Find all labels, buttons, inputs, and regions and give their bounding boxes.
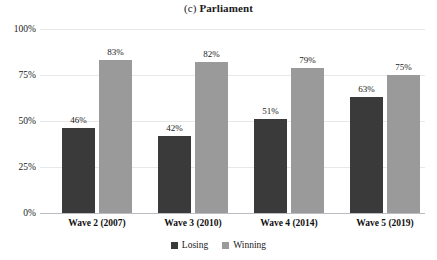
bar-value-label: 51% (246, 106, 295, 116)
y-axis-tick-label: 25% (2, 162, 36, 172)
bar-value-label: 79% (283, 55, 332, 65)
chart-legend: LosingWinning (0, 240, 437, 251)
bar-losing-1[interactable] (62, 128, 95, 213)
bar-losing-2[interactable] (158, 136, 191, 213)
y-axis-tick-label: 100% (2, 24, 36, 34)
bar-winning-3[interactable] (291, 68, 324, 213)
bar-value-label: 42% (150, 123, 199, 133)
y-axis-tick-label: 0% (2, 208, 36, 218)
chart-title-prefix: (c) (184, 2, 197, 14)
y-axis-tick-label: 50% (2, 116, 36, 126)
bar-value-label: 75% (379, 62, 428, 72)
legend-label: Losing (182, 240, 208, 251)
chart-title-main: Parliament (199, 2, 253, 14)
legend-label: Winning (233, 240, 266, 251)
legend-item-winning[interactable]: Winning (222, 240, 266, 251)
gridline (40, 75, 425, 76)
axis-baseline (40, 213, 425, 214)
x-axis-tick-label: Wave 5 (2019) (325, 217, 437, 229)
bar-value-label: 63% (342, 84, 391, 94)
plot-area: 46%83%42%82%51%79%63%75% (40, 29, 425, 213)
legend-item-losing[interactable]: Losing (171, 240, 208, 251)
bar-losing-3[interactable] (254, 119, 287, 213)
bar-losing-4[interactable] (350, 97, 383, 213)
y-axis-tick-label: 75% (2, 70, 36, 80)
bar-value-label: 83% (91, 47, 140, 57)
bar-winning-1[interactable] (99, 60, 132, 213)
bar-value-label: 46% (54, 115, 103, 125)
bar-winning-4[interactable] (387, 75, 420, 213)
gridline (40, 29, 425, 30)
legend-swatch-icon (222, 242, 229, 249)
chart-figure: (c) Parliament 100%75%50%25%0% 46%83%42%… (0, 0, 437, 260)
bar-value-label: 82% (187, 49, 236, 59)
chart-title: (c) Parliament (0, 1, 437, 15)
legend-swatch-icon (171, 242, 178, 249)
bar-winning-2[interactable] (195, 62, 228, 213)
